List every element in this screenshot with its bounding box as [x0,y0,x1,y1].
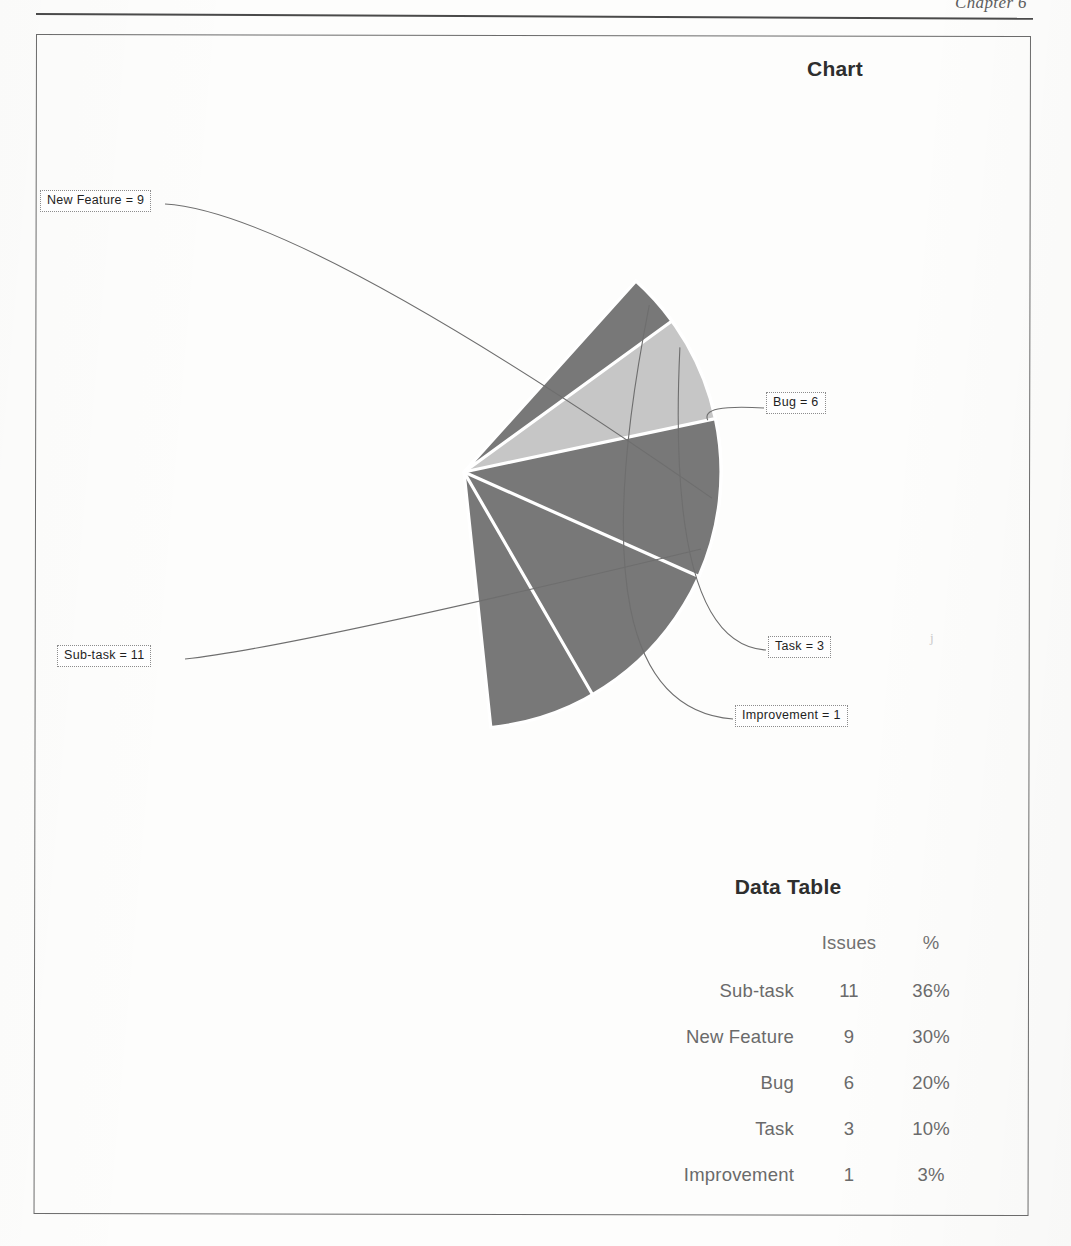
cell-percent: 10% [888,1106,974,1152]
cell-issues: 6 [810,1060,888,1106]
pie-label-improvement: Improvement = 1 [735,705,848,727]
column-header-name [600,920,810,968]
pie-label-task: Task = 3 [768,636,831,658]
cell-issues: 9 [810,1014,888,1060]
column-header-percent: % [888,920,974,968]
cell-name: Sub-task [600,968,810,1014]
table-row: Sub-task1136% [600,968,974,1014]
pie-label-new-feature: New Feature = 9 [40,190,151,212]
cell-issues: 3 [810,1106,888,1152]
cell-percent: 20% [888,1060,974,1106]
cell-name: Task [600,1106,810,1152]
cell-percent: 30% [888,1014,974,1060]
scan-artifact: j [930,630,936,644]
cell-name: Improvement [600,1152,810,1198]
table-header-row: Issues % [600,920,974,968]
cell-percent: 3% [888,1152,974,1198]
data-table-title: Data Table [678,875,898,899]
table-row: Bug620% [600,1060,974,1106]
cell-name: New Feature [600,1014,810,1060]
pie-label-sub-task: Sub-task = 11 [57,645,151,667]
chart-title: Chart [760,57,910,81]
data-table: Issues % Sub-task1136%New Feature930%Bug… [600,920,974,1198]
column-header-issues: Issues [810,920,888,968]
cell-issues: 1 [810,1152,888,1198]
cell-name: Bug [600,1060,810,1106]
table-row: Improvement13% [600,1152,974,1198]
table-body: Sub-task1136%New Feature930%Bug620%Task3… [600,968,974,1198]
table-row: Task310% [600,1106,974,1152]
table-row: New Feature930% [600,1014,974,1060]
running-header: Chapter 6 [955,0,1027,13]
cell-issues: 11 [810,968,888,1014]
pie-label-bug: Bug = 6 [766,392,826,414]
cell-percent: 36% [888,968,974,1014]
